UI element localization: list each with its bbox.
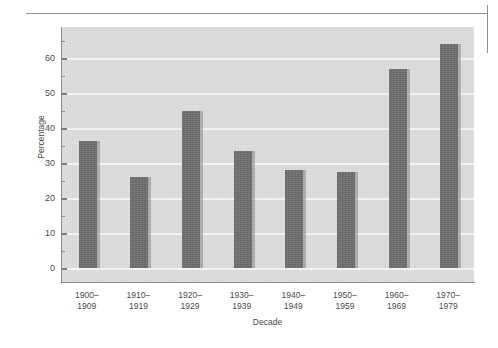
y-axis-tick-label: 20 xyxy=(31,193,55,203)
gridline xyxy=(62,198,474,200)
y-axis-tick xyxy=(62,163,67,165)
x-axis-tick-label: 1900– 1909 xyxy=(61,290,113,312)
x-axis-tick-label: 1950– 1959 xyxy=(319,290,371,312)
x-axis-tick-label: 1930– 1939 xyxy=(216,290,268,312)
bar[interactable] xyxy=(130,177,148,268)
y-axis-tick-label: 10 xyxy=(31,228,55,238)
y-axis-minor-tick xyxy=(62,251,65,253)
y-axis-minor-tick xyxy=(62,146,65,148)
gridline xyxy=(62,128,474,130)
gridline xyxy=(62,233,474,235)
x-axis-title: Decade xyxy=(61,317,474,327)
y-axis-tick xyxy=(62,93,67,95)
gridline xyxy=(62,268,474,270)
y-axis-tick xyxy=(62,268,67,270)
gridline xyxy=(62,163,474,165)
y-axis-minor-tick xyxy=(62,216,65,218)
y-axis-tick xyxy=(62,58,67,60)
y-axis-tick xyxy=(62,233,67,235)
plot-area xyxy=(61,27,474,282)
y-axis-minor-tick xyxy=(62,111,65,113)
gridline xyxy=(62,58,474,60)
y-axis-minor-tick xyxy=(62,41,65,43)
bar[interactable] xyxy=(182,111,200,268)
bar[interactable] xyxy=(234,151,252,268)
y-axis-title: Percentage xyxy=(36,92,46,182)
y-axis-tick-label: 60 xyxy=(31,53,55,63)
x-axis-tick-label: 1970– 1979 xyxy=(422,290,474,312)
gridline xyxy=(62,93,474,95)
y-axis-tick xyxy=(62,128,67,130)
x-axis-tick-label: 1920– 1929 xyxy=(164,290,216,312)
y-axis-tick xyxy=(62,198,67,200)
y-axis-minor-tick xyxy=(62,76,65,78)
bar[interactable] xyxy=(79,141,97,268)
y-axis-minor-tick xyxy=(62,181,65,183)
x-axis-tick-label: 1960– 1969 xyxy=(371,290,423,312)
bar[interactable] xyxy=(285,170,303,268)
x-axis-tick-label: 1910– 1919 xyxy=(112,290,164,312)
bar[interactable] xyxy=(389,69,407,268)
bar[interactable] xyxy=(440,44,458,268)
x-axis-tick-label: 1940– 1949 xyxy=(267,290,319,312)
y-axis-tick-label: 0 xyxy=(31,263,55,273)
x-axis-line xyxy=(61,282,475,283)
bar[interactable] xyxy=(337,172,355,268)
bar-chart-figure: 0102030405060 1900– 19091910– 19191920– … xyxy=(0,0,498,348)
